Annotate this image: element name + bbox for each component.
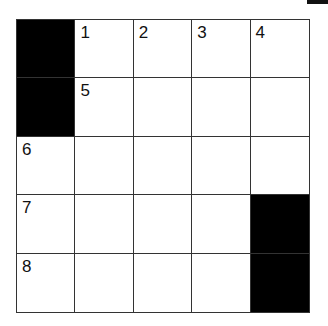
crossword-cell[interactable]: 2 (134, 20, 192, 78)
black-square (17, 78, 75, 136)
clue-number: 7 (22, 199, 31, 216)
crossword-cell[interactable] (134, 254, 192, 312)
crossword-cell[interactable] (251, 137, 309, 195)
clue-number: 2 (139, 24, 148, 41)
black-square (251, 254, 309, 312)
crossword-cell[interactable] (251, 78, 309, 136)
clue-number: 4 (256, 24, 265, 41)
crossword-cell[interactable] (134, 195, 192, 253)
clue-number: 3 (197, 24, 206, 41)
crossword-cell[interactable]: 4 (251, 20, 309, 78)
clue-number: 6 (22, 141, 31, 158)
clue-number: 5 (80, 82, 89, 99)
crossword-cell[interactable] (192, 78, 250, 136)
crossword-cell[interactable] (192, 195, 250, 253)
black-square (251, 195, 309, 253)
crossword-cell[interactable] (75, 137, 133, 195)
crossword-cell[interactable]: 8 (17, 254, 75, 312)
corner-bar (307, 0, 328, 4)
crossword-cell[interactable] (75, 254, 133, 312)
crossword-cell[interactable]: 5 (75, 78, 133, 136)
crossword-cell[interactable] (192, 137, 250, 195)
crossword-cell[interactable]: 6 (17, 137, 75, 195)
crossword-cell[interactable]: 1 (75, 20, 133, 78)
crossword-grid: 12345678 (16, 19, 310, 313)
crossword-cell[interactable]: 7 (17, 195, 75, 253)
clue-number: 8 (22, 258, 31, 275)
crossword-cell[interactable] (75, 195, 133, 253)
crossword-cell[interactable] (134, 137, 192, 195)
crossword-cell[interactable]: 3 (192, 20, 250, 78)
black-square (17, 20, 75, 78)
crossword-cell[interactable] (192, 254, 250, 312)
crossword-cell[interactable] (134, 78, 192, 136)
clue-number: 1 (80, 24, 89, 41)
